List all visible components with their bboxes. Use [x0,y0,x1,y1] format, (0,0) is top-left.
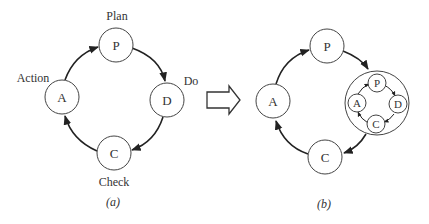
node-c: C [97,136,131,170]
node-b-a-label: A [268,94,278,109]
caption-a: (a) [106,195,120,209]
inner-node-d-label: D [394,98,402,110]
label-check: Check [99,175,130,189]
label-do: Do [184,74,199,88]
nested-pdca-cycle: P D C A [345,71,409,135]
transition-arrow-icon [207,86,240,114]
inner-node-a-label: A [353,97,361,109]
node-c-label: C [110,146,119,161]
arrow-b-c-to-a [276,121,308,154]
diagram-b: P A C P D C A (b) [256,29,409,211]
label-action: Action [17,71,50,85]
pdca-diagram: P D C A Plan Do Check Action (a) P [0,0,429,224]
node-b-a: A [256,84,290,118]
node-d-label: D [162,93,171,108]
diagram-a: P D C A Plan Do Check Action (a) [17,9,199,209]
node-p: P [99,28,133,62]
arrow-c-to-a [65,116,97,151]
node-b-c: C [308,140,342,174]
arrow-a-to-p [65,47,98,80]
node-d: D [150,83,184,117]
node-b-c-label: C [321,150,330,165]
node-p-label: P [112,38,119,53]
arrow-b-p-to-pdca [343,51,368,69]
caption-b: (b) [317,197,331,211]
node-a-label: A [57,90,67,105]
node-b-p-label: P [323,39,330,54]
arrow-b-pdca-to-c [344,134,366,153]
inner-node-c-label: C [372,118,379,130]
node-b-p: P [310,29,344,63]
arrow-d-to-c [132,117,163,150]
node-a: A [45,80,79,114]
arrow-b-a-to-p [276,50,309,84]
inner-node-p-label: P [374,77,380,89]
arrow-p-to-d [132,48,165,81]
label-plan: Plan [106,9,127,23]
